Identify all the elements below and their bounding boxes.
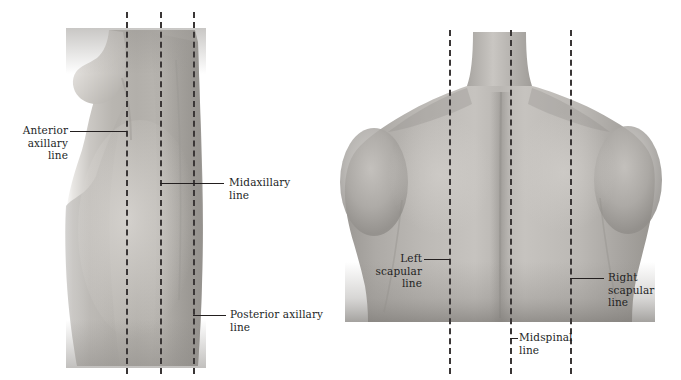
leader-midspinal — [510, 338, 518, 339]
label-midaxillary: Midaxillary line — [229, 176, 319, 201]
leader-posterior-axillary — [193, 315, 226, 316]
dash-posterior-axillary — [193, 12, 195, 374]
left-scapula-highlight — [388, 115, 492, 235]
label-anterior-axillary: Anterior axillary line — [6, 124, 68, 162]
leader-midaxillary — [160, 183, 224, 184]
dash-midaxillary — [160, 12, 162, 374]
bottom-fade — [66, 320, 206, 368]
anatomical-figure: Anterior axillary line Midaxillary line … — [0, 0, 681, 380]
label-left-scapular: Left scapular line — [352, 252, 422, 290]
dash-midspinal — [510, 30, 512, 374]
torso-highlight — [78, 120, 202, 340]
posterior-view-panel — [340, 0, 681, 380]
top-fade — [66, 28, 206, 74]
neck — [467, 32, 532, 86]
dash-anterior-axillary — [126, 12, 128, 374]
dash-left-scapular — [449, 30, 451, 374]
dash-right-scapular — [570, 30, 572, 374]
label-midspinal: Midspinal line — [519, 331, 587, 356]
leader-anterior-axillary — [70, 131, 127, 132]
label-posterior-axillary: Posterior axillary line — [230, 308, 334, 333]
label-right-scapular: Right scapular line — [608, 271, 681, 309]
leader-left-scapular — [424, 259, 450, 260]
leader-right-scapular — [570, 278, 604, 279]
